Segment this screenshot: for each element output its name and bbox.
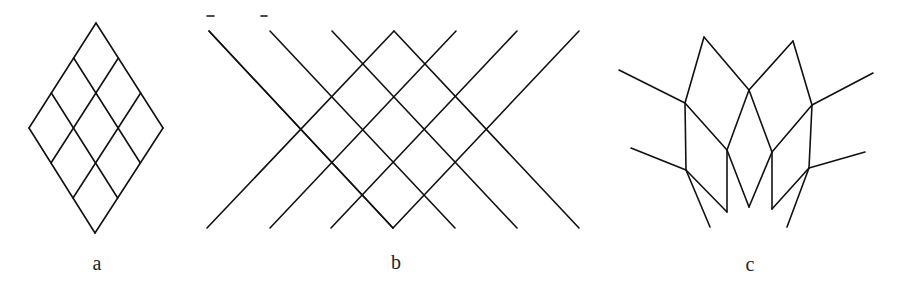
panel-a-rhombus-grid	[29, 23, 163, 233]
fold-segment	[727, 150, 749, 207]
diagram-canvas	[0, 0, 904, 287]
fold-segment	[812, 73, 873, 105]
fold-segment	[772, 105, 812, 152]
fold-segment	[686, 170, 727, 212]
fold-segment	[749, 41, 793, 90]
fold-segment	[749, 90, 772, 152]
panel-a-label: a	[93, 252, 102, 275]
fold-segment	[619, 70, 685, 103]
fold-segment	[749, 152, 772, 207]
grid-line	[29, 23, 96, 128]
fold-segment	[685, 37, 704, 103]
fold-segment	[787, 168, 809, 227]
fold-segment	[793, 41, 812, 105]
fold-segment	[809, 105, 812, 168]
fold-segment	[686, 170, 710, 227]
fold-segment	[685, 103, 727, 150]
panel-c-folded-lattice	[619, 37, 873, 227]
fold-segment	[772, 168, 809, 209]
grid-line	[96, 23, 163, 128]
fold-segment	[809, 152, 865, 168]
fold-segment	[704, 37, 749, 90]
fold-segment	[727, 90, 749, 150]
panel-c-label: c	[746, 253, 755, 276]
panel-b-label: b	[391, 251, 401, 274]
fold-segment	[631, 148, 686, 170]
panel-b-diagonal-lattice	[207, 16, 579, 228]
fold-segment	[685, 103, 686, 170]
